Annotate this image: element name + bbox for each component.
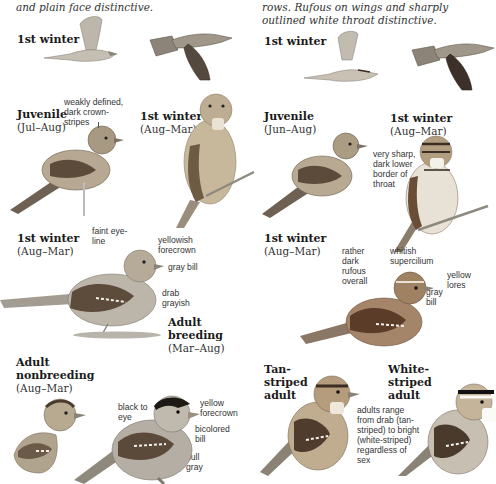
- ground-shadow: [72, 330, 162, 340]
- right-white-striped-title-1: White-: [388, 363, 429, 376]
- left-adult-nonbreeding-title-1: Adult: [16, 356, 49, 369]
- bird-white-striped-adult-illustration: [398, 376, 496, 476]
- bird-flight-upwing-right-illustration: [300, 30, 400, 70]
- right-juvenile-title: Juvenile: [264, 110, 314, 123]
- left-intro-text: and plain face distinctive.: [16, 1, 246, 14]
- bird-juvenile-right-illustration: [262, 128, 372, 218]
- left-adult-breeding-title-2: breeding: [168, 329, 223, 342]
- left-adult-nonbreeding-title-2: nonbreeding: [16, 369, 94, 382]
- bird-juvenile-left-illustration: [10, 120, 130, 220]
- bird-adult-breeding-illustration: [74, 394, 204, 484]
- bird-first-winter-front-left-illustration: [176, 90, 256, 230]
- right-note-lores: yellow lores: [447, 270, 481, 290]
- right-note-supercilium: whitish supercilium: [390, 246, 446, 266]
- left-adult-breeding-title-1: Adult: [168, 316, 201, 329]
- left-adult-nonbreeding-range: (Aug–Mar): [16, 382, 73, 395]
- leader-line: [98, 122, 99, 128]
- left-adult-breeding-range: (Mar–Aug): [168, 342, 225, 355]
- left-note-yellow-forecrown: yellow forecrown: [200, 398, 246, 418]
- bird-tan-striped-adult-illustration: [260, 366, 360, 476]
- bird-first-winter-side-right-illustration: [300, 270, 440, 350]
- right-intro-text: rows. Rufous on wings and sharply outlin…: [262, 1, 494, 27]
- bird-flight-downwing-illustration: [148, 30, 238, 90]
- bird-flight-downwing-right-illustration: [410, 40, 496, 100]
- bird-flight-upwing-illustration: [40, 14, 140, 64]
- bird-first-winter-side-left-illustration: [0, 240, 170, 340]
- right-first-winter-side-range: (Aug–Mar): [264, 245, 321, 258]
- bird-first-winter-front-right-illustration: [388, 122, 488, 252]
- right-first-winter-side-title: 1st winter: [264, 232, 326, 245]
- left-note-bill: gray bill: [168, 262, 198, 272]
